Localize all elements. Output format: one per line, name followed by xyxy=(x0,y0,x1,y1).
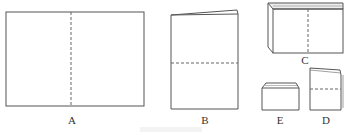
panel-c: C xyxy=(268,3,343,66)
panel-b: B xyxy=(171,10,238,126)
label-b: B xyxy=(201,114,208,126)
panel-d: D xyxy=(310,68,343,126)
label-d: D xyxy=(322,114,330,126)
sheet-e xyxy=(262,83,299,110)
folding-diagram: A B C E D xyxy=(0,0,348,135)
sheet-b xyxy=(171,10,238,109)
label-c: C xyxy=(301,54,308,66)
label-a: A xyxy=(68,114,76,126)
sheet-a xyxy=(6,12,144,106)
figure-caption xyxy=(140,127,202,132)
label-e: E xyxy=(277,114,284,126)
panel-e: E xyxy=(262,83,299,126)
side-bevel-c xyxy=(268,3,273,53)
panel-a: A xyxy=(6,12,144,126)
